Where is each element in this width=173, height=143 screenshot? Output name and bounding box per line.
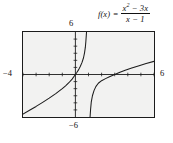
formula-denominator: x − 1 xyxy=(124,14,147,23)
function-formula: f(x) = x2 − 3x x − 1 xyxy=(76,1,172,27)
x-min-label: −4 xyxy=(3,69,12,78)
plot-canvas xyxy=(23,32,154,117)
formula-numerator: x2 − 3x xyxy=(121,4,151,13)
curve-right-branch xyxy=(90,61,154,117)
x-max-label: 6 xyxy=(160,69,164,78)
graph-figure: f(x) = x2 − 3x x − 1 xyxy=(0,0,173,143)
y-min-label: −6 xyxy=(69,121,78,130)
numerator-remainder: − 3x xyxy=(130,3,149,13)
y-max-label: 6 xyxy=(69,19,73,28)
formula-function-name: f(x) xyxy=(98,9,110,19)
curve-left-branch xyxy=(23,32,87,114)
formula-fraction: x2 − 3x x − 1 xyxy=(121,4,151,24)
plot-frame xyxy=(22,31,155,118)
formula-equals-sign: = xyxy=(113,9,118,19)
